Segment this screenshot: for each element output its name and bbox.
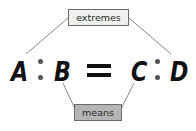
term-b: B	[54, 58, 71, 85]
term-d: D	[170, 58, 188, 85]
colon-dot	[38, 75, 43, 80]
colon-dot	[155, 75, 160, 80]
extremes-label-box: extremes	[68, 9, 129, 26]
colon-dot	[38, 59, 43, 64]
means-label-box: means	[74, 104, 122, 121]
term-a: A	[11, 58, 28, 85]
extremes-label: extremes	[76, 12, 121, 23]
equals-bar	[87, 64, 111, 68]
colon-dot	[155, 59, 160, 64]
extremes-to-a-line	[26, 18, 68, 54]
term-c: C	[131, 58, 147, 85]
equals-bar	[87, 73, 111, 77]
extremes-to-d-line	[129, 18, 171, 54]
ratio-colon-right	[155, 59, 161, 81]
means-label: means	[82, 107, 114, 118]
ratio-colon-left	[38, 59, 44, 81]
equals-sign	[87, 64, 111, 77]
